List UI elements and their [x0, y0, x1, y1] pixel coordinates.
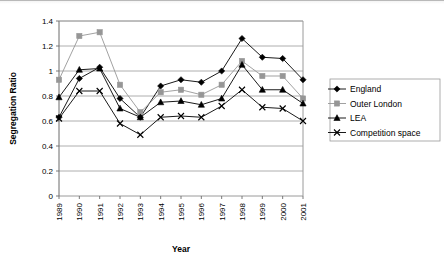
x-tick-label: 1996 — [197, 202, 206, 220]
legend-marker-square — [334, 101, 339, 106]
y-tick-label: 0.8 — [42, 92, 54, 101]
data-point-square — [158, 90, 163, 95]
y-tick-labels: 00.20.40.60.811.21.4 — [42, 17, 54, 201]
y-tick-label: 1.2 — [42, 42, 54, 51]
y-tick-label: 0.6 — [42, 117, 54, 126]
plot-frame — [59, 21, 303, 196]
x-tick-labels: 1989199019911992199319941995199619971998… — [55, 202, 308, 220]
x-tick-label: 1991 — [96, 202, 105, 220]
y-tick-label: 1 — [49, 67, 54, 76]
x-tick-label: 2001 — [299, 202, 308, 220]
legend-label: England — [350, 84, 381, 94]
x-tick-label: 1993 — [136, 202, 145, 220]
x-tick-label: 1989 — [55, 202, 64, 220]
data-point-square — [56, 77, 61, 82]
data-point-square — [97, 30, 102, 35]
data-point-diamond — [76, 75, 82, 81]
x-tick-label: 2000 — [279, 202, 288, 220]
data-point-triangle — [117, 105, 123, 111]
y-tick-label: 0.4 — [42, 142, 54, 151]
x-tick-label: 1990 — [75, 202, 84, 220]
chart-figure: 00.20.40.60.811.21.4 1989199019911992199… — [0, 0, 444, 261]
legend-label: LEA — [350, 113, 366, 123]
x-tick-label: 1992 — [116, 202, 125, 220]
data-point-square — [280, 73, 285, 78]
chart-svg: 00.20.40.60.811.21.4 1989199019911992199… — [0, 0, 444, 261]
legend-label: Outer London — [350, 99, 402, 109]
y-tick-label: 0.2 — [42, 167, 54, 176]
x-tick-label: 1997 — [218, 202, 227, 220]
legend: EnglandOuter LondonLEACompetition space — [328, 79, 440, 141]
x-tick-label: 1999 — [258, 202, 267, 220]
legend-label: Competition space — [350, 128, 421, 138]
x-tick-label: 1994 — [157, 202, 166, 220]
data-point-square — [199, 92, 204, 97]
data-point-diamond — [219, 68, 225, 74]
x-axis-title: Year — [172, 244, 191, 254]
data-point-triangle — [178, 98, 184, 104]
gridlines — [56, 21, 303, 196]
y-tick-label: 0 — [49, 192, 54, 201]
x-tick-label: 1998 — [238, 202, 247, 220]
data-point-cross — [239, 87, 245, 93]
data-point-diamond — [178, 77, 184, 83]
data-point-square — [117, 82, 122, 87]
y-tick-label: 1.4 — [42, 17, 54, 26]
data-point-diamond — [198, 79, 204, 85]
data-point-square — [178, 87, 183, 92]
x-tick-label: 1995 — [177, 202, 186, 220]
data-point-square — [219, 82, 224, 87]
data-point-cross — [219, 103, 225, 109]
data-point-square — [260, 73, 265, 78]
data-point-diamond — [158, 83, 164, 89]
data-point-cross — [137, 132, 143, 138]
y-axis-title: Segregation Ratio — [8, 72, 18, 145]
data-point-square — [77, 33, 82, 38]
series-competition-space — [56, 87, 306, 138]
